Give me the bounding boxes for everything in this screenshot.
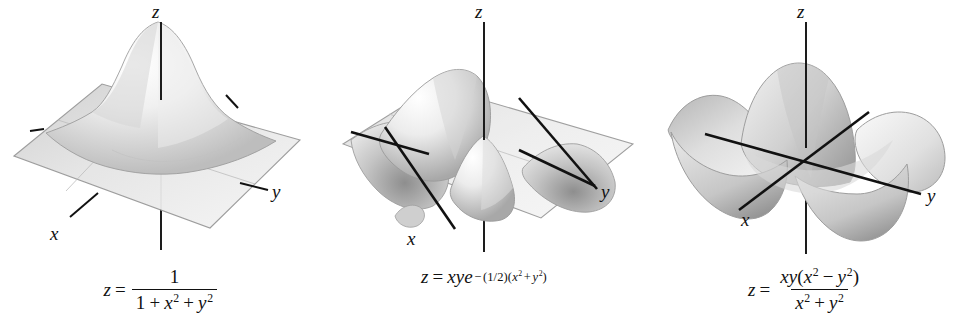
formula-1: z = 1 1+x2+y2	[103, 266, 219, 314]
formula-2: z = xye−(1/2)(x2+y2)	[421, 266, 547, 288]
formula-2-lhs: z	[421, 266, 429, 288]
surface-plot-3: z x y	[645, 0, 967, 262]
caption-1: z = 1 1+x2+y2	[0, 262, 323, 336]
axis-label-z-1: z	[151, 1, 160, 22]
x-axis-1	[70, 193, 98, 217]
formula-1-denominator: 1+x2+y2	[132, 289, 217, 314]
small-bump-2	[395, 205, 424, 227]
formula-1-lhs: z	[103, 279, 111, 301]
formula-1-fraction: 1 1+x2+y2	[132, 266, 217, 314]
panel-1: z x y z = 1 1+x2+y2	[0, 0, 323, 336]
formula-3-fraction: xy(x2−y2) x2+y2	[776, 266, 863, 314]
formula-3: z = xy(x2−y2) x2+y2	[748, 266, 865, 314]
tick-mark-right-1	[226, 95, 238, 108]
four-lobe-gaussian-surface-svg: x y z	[323, 0, 645, 262]
caption-2: z = xye−(1/2)(x2+y2)	[323, 262, 646, 336]
formula-2-base: xye	[447, 266, 473, 288]
den-term-2: x	[164, 292, 173, 313]
formula-3-denominator: x2+y2	[791, 289, 848, 314]
formula-2-exponent: −(1/2)(x2+y2)	[473, 274, 547, 277]
surface-plot-2: x y z	[323, 0, 645, 262]
panel-3: z x y z = xy(x2−y2) x2+y2	[645, 0, 968, 336]
den-term-1: 1	[136, 292, 146, 313]
tick-mark-left-1	[30, 129, 44, 131]
caption-3: z = xy(x2−y2) x2+y2	[645, 262, 968, 336]
den-term-3: y	[198, 292, 207, 313]
formula-1-numerator: 1	[166, 266, 184, 289]
formula-2-equals: =	[428, 266, 447, 288]
axis-label-x-1: x	[49, 223, 59, 244]
figure-row: z x y z = 1 1+x2+y2	[0, 0, 968, 336]
panel-2: x y z z = xye−(1/2)(x2+y2)	[323, 0, 646, 336]
bell-surface-svg: z x y	[0, 0, 322, 262]
axis-label-y-1: y	[270, 181, 281, 202]
monkey-saddle-surface-svg: z x y	[645, 0, 967, 262]
axis-label-y-2: y	[599, 181, 610, 202]
axis-label-z-3: z	[796, 1, 805, 22]
axis-label-z-2: z	[474, 1, 483, 22]
axis-label-x-3: x	[740, 209, 750, 230]
formula-3-lhs: z	[748, 279, 756, 301]
formula-3-equals: =	[755, 279, 774, 301]
surface-plot-1: z x y	[0, 0, 322, 262]
axis-label-y-3: y	[925, 185, 936, 206]
formula-1-equals: =	[111, 279, 130, 301]
axis-label-x-2: x	[406, 228, 416, 249]
formula-3-numerator: xy(x2−y2)	[776, 266, 863, 289]
